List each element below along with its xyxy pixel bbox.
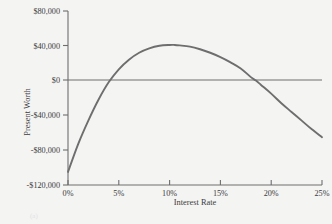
y-axis-title: Present Worth bbox=[23, 88, 32, 135]
x-tick-label-15: 15% bbox=[213, 189, 228, 198]
y-tick-label-neg80000: -$80,000 bbox=[0, 146, 60, 155]
present-worth-curve bbox=[68, 45, 322, 172]
x-axis-tick-marks bbox=[68, 180, 322, 185]
figure-caption: (a) bbox=[30, 212, 38, 220]
y-tick-label-80000: $80,000 bbox=[0, 7, 60, 16]
x-tick-label-0: 0% bbox=[63, 189, 74, 198]
x-tick-label-5: 5% bbox=[113, 189, 124, 198]
present-worth-chart-figure: $80,000 $40,000 $0 -$40,000 -$80,000 -$1… bbox=[0, 0, 332, 224]
x-axis-title: Interest Rate bbox=[174, 198, 217, 207]
x-tick-label-10: 10% bbox=[162, 189, 177, 198]
y-tick-label-0: $0 bbox=[0, 76, 60, 85]
y-axis-tick-marks bbox=[63, 11, 68, 185]
y-tick-label-neg120000: -$120,000 bbox=[0, 181, 60, 190]
x-tick-label-25: 25% bbox=[314, 189, 329, 198]
y-tick-label-40000: $40,000 bbox=[0, 41, 60, 50]
x-tick-label-20: 20% bbox=[264, 189, 279, 198]
